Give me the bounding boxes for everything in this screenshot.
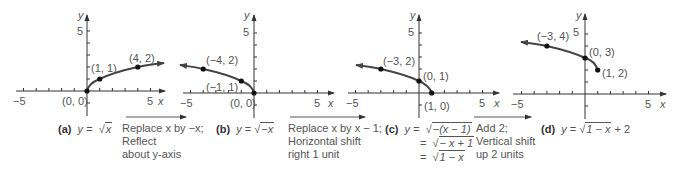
graph-a: −5 5 x 5 y (0, 0) (1, 1) (4, 2) (13, 9, 165, 116)
transform-line: Vertical shift (476, 135, 535, 148)
point-label: (1, 0) (424, 100, 450, 112)
radicand: −x (261, 123, 273, 135)
equals: = (83, 123, 96, 135)
point (416, 78, 421, 83)
point-label: (−1, 1) (206, 81, 238, 93)
transform-line: about y-axis (122, 148, 204, 161)
point-label: (4, 2) (129, 52, 155, 64)
point-label: (0, 0) (230, 97, 256, 109)
x-axis-label: x (659, 98, 666, 110)
point-label: (−3, 4) (537, 30, 569, 42)
radicand: − x + 1 (440, 137, 474, 149)
x-tick-label-5: 5 (314, 97, 320, 109)
y-axis-label: y (409, 9, 417, 21)
x-axis-label: x (493, 97, 500, 109)
x-tick-label-neg5: −5 (346, 97, 359, 109)
x-tick-label-neg5: −5 (180, 97, 193, 109)
y-axis-label: y (575, 9, 583, 21)
point-label: (−3, 2) (383, 55, 415, 67)
point (429, 90, 434, 95)
transform-line: up 2 units (476, 148, 535, 161)
x-tick-label-5: 5 (147, 95, 153, 107)
transform-text-3: Add 2; Vertical shift up 2 units (476, 122, 535, 161)
equals: = (420, 151, 429, 163)
y-tick-label-5: 5 (408, 26, 414, 38)
point (135, 64, 140, 69)
transform-line: right 1 unit (288, 148, 382, 161)
equals: = (567, 123, 580, 135)
point (378, 66, 383, 71)
y-axis-label: y (77, 9, 85, 21)
y-tick-label-5: 5 (243, 26, 249, 38)
point-label: (0, 0) (62, 95, 88, 107)
caption-tag: (c) (385, 123, 398, 135)
radicand: 1 − x (440, 151, 464, 163)
caption-tag: (b) (216, 123, 230, 135)
transform-line: Add 2; (476, 122, 535, 135)
transform-line: Replace x by −x; (122, 122, 204, 135)
graph-b: −5 5 x 5 y (−4, 2) (−1, 1) (0, 0) (180, 9, 334, 118)
point-label: (1, 1) (91, 62, 117, 74)
point-label: (1, 2) (602, 67, 628, 79)
x-tick-label-neg5: −5 (511, 98, 524, 110)
y-tick-label-5: 5 (77, 25, 83, 37)
caption-a: (a) y = √x (58, 122, 112, 136)
caption-b: (b) y = √−x (216, 122, 274, 136)
point (595, 67, 600, 72)
point (544, 43, 549, 48)
equals: = (420, 137, 429, 149)
transform-text-2: Replace x by x − 1; Horizontal shift rig… (288, 122, 382, 161)
point-label: (0, 1) (423, 70, 449, 82)
radicand: −(x − 1) (433, 123, 471, 135)
point (582, 55, 587, 60)
y-tick-label-5: 5 (573, 26, 579, 38)
caption-d: (d) y = √1 − x + 2 (541, 122, 630, 136)
point (201, 66, 206, 71)
equals: = (242, 123, 255, 135)
transform-text-1: Replace x by −x; Reflect about y-axis (122, 122, 204, 161)
caption-tag: (d) (541, 123, 555, 135)
x-axis-label: x (157, 95, 164, 107)
x-tick-label-5: 5 (479, 97, 485, 109)
point (84, 88, 89, 93)
y-axis-label: y (243, 9, 251, 21)
x-tick-label-neg5: −5 (13, 95, 26, 107)
caption-tag: (a) (58, 123, 71, 135)
transform-line: Replace x by x − 1; (288, 122, 382, 135)
point (97, 76, 102, 81)
x-axis-label: x (327, 97, 334, 109)
point (239, 78, 244, 83)
point-label: (−4, 2) (206, 54, 238, 66)
point-label: (0, 3) (589, 46, 615, 58)
transform-line: Horizontal shift (288, 135, 382, 148)
radicand: 1 − x (586, 123, 610, 135)
graph-c: −5 5 x 5 y (−3, 2) (0, 1) (1, 0) (346, 9, 500, 118)
transform-line: Reflect (122, 135, 204, 148)
point (251, 90, 256, 95)
radicand: x (106, 123, 112, 135)
caption-c: (c) y = √−(x − 1) = √− x + 1 = √1 − x (385, 122, 474, 164)
equals: = (410, 123, 423, 135)
caption-tail: + 2 (611, 123, 630, 135)
x-tick-label-5: 5 (645, 98, 651, 110)
graph-d: −5 5 x 5 y (−3, 4) (0, 3) (1, 2) (511, 9, 666, 119)
